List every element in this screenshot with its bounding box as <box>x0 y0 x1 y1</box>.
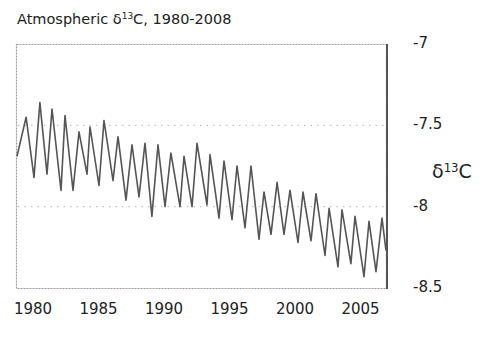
y-tick-label: -8 <box>413 197 428 215</box>
x-tick-label: 2005 <box>341 300 379 318</box>
gridlines <box>18 125 385 206</box>
y-tick-label: -7.5 <box>413 115 442 133</box>
y-tick-label: -7 <box>413 34 428 52</box>
x-tick-label: 1985 <box>79 300 117 318</box>
data-series-line <box>17 103 386 277</box>
x-tick-label: 1995 <box>210 300 248 318</box>
x-tick-label: 1980 <box>14 300 52 318</box>
x-tick-label: 2000 <box>276 300 314 318</box>
x-tick-label: 1990 <box>145 300 183 318</box>
y-tick-label: -8.5 <box>413 278 442 296</box>
y-axis-label: δ13C <box>432 160 472 182</box>
